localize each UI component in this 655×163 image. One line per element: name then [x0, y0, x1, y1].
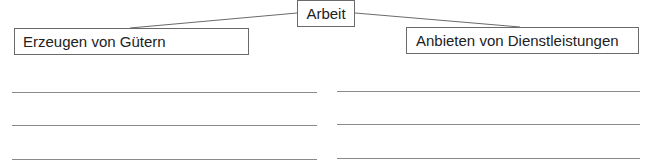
- answer-line-left-2[interactable]: [12, 125, 317, 126]
- branch-node-goods: Erzeugen von Gütern: [14, 28, 249, 55]
- branch-node-label: Erzeugen von Gütern: [23, 33, 166, 50]
- branch-node-label: Anbieten von Dienstleistungen: [416, 32, 619, 49]
- answer-line-right-2[interactable]: [337, 124, 640, 125]
- answer-line-left-1[interactable]: [12, 92, 317, 93]
- branch-node-services: Anbieten von Dienstleistungen: [406, 27, 639, 54]
- answer-line-left-3[interactable]: [12, 159, 317, 160]
- answer-line-right-1[interactable]: [337, 91, 640, 92]
- answer-line-right-3[interactable]: [337, 158, 640, 159]
- root-node-label: Arbeit: [306, 5, 345, 22]
- root-node-arbeit: Arbeit: [297, 0, 355, 27]
